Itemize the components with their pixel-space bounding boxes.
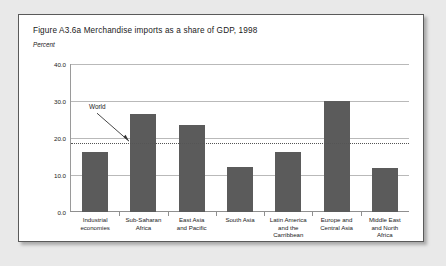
x-axis-category-label-line: Central Asia [312, 224, 360, 232]
world-arrow-icon [71, 64, 409, 212]
x-axis-category-label-line: and North [361, 224, 409, 232]
x-axis-category-label-line: Middle East [361, 216, 409, 224]
x-axis-category-label: South Asia [216, 216, 264, 224]
x-axis-category-label: Latin Americaand theCarribbean [264, 216, 312, 239]
x-axis-category-label: Middle Eastand NorthAfrica [361, 216, 409, 239]
figure-frame: Figure A3.6a Merchandise imports as a sh… [18, 14, 424, 242]
x-axis-category-label-line: Africa [361, 231, 409, 239]
y-axis-tick-label: 0.0 [57, 209, 66, 216]
x-axis-category-label: Industrialeconomies [71, 216, 119, 231]
x-axis-category-label-line: and Pacific [168, 224, 216, 232]
x-axis-category-label-line: Industrial [71, 216, 119, 224]
figure-title: Figure A3.6a Merchandise imports as a sh… [33, 26, 257, 35]
x-axis-category-label: Sub-SaharanAfrica [119, 216, 167, 231]
x-axis-category-label: East Asiaand Pacific [168, 216, 216, 231]
y-axis-tick-label: 20.0 [54, 135, 66, 142]
x-axis-category-label-line: Europe and [312, 216, 360, 224]
y-axis-unit-label: Percent [33, 41, 55, 48]
x-axis-category-label-line: economies [71, 224, 119, 232]
x-axis-category-label-line: Africa [119, 224, 167, 232]
world-annotation-label: World [89, 103, 106, 110]
y-axis-tick-label: 10.0 [54, 172, 66, 179]
y-axis-tick-label: 30.0 [54, 98, 66, 105]
x-axis-category-label-line: and the [264, 224, 312, 232]
x-axis-category-label-line: Sub-Saharan [119, 216, 167, 224]
x-axis-category-label-line: Latin America [264, 216, 312, 224]
plot-area: 0.010.020.030.040.0 World Industrialecon… [71, 64, 409, 212]
x-axis-category-label-line: South Asia [216, 216, 264, 224]
y-axis-tick-label: 40.0 [54, 61, 66, 68]
x-axis-category-label-line: Carribbean [264, 231, 312, 239]
x-axis-category-label-line: East Asia [168, 216, 216, 224]
x-axis-category-label: Europe andCentral Asia [312, 216, 360, 231]
